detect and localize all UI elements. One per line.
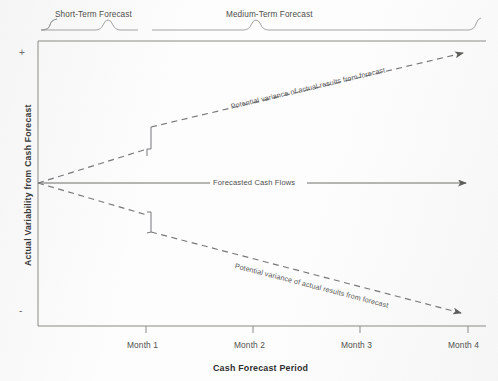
- x-axis-ticks: [146, 326, 468, 333]
- series-upper-variance: [38, 53, 463, 183]
- x-tick-label-month-1: Month 1: [127, 341, 158, 349]
- x-tick-label-month-4: Month 4: [448, 341, 479, 349]
- annotation-forecasted-cash-flows: Forecasted Cash Flows: [212, 179, 296, 187]
- bracket-medium-term: [152, 18, 481, 30]
- y-axis-positive-sign: +: [19, 48, 25, 58]
- bracket-label-short-term: Short-Term Forecast: [55, 11, 132, 19]
- series-lower-variance: [38, 183, 461, 313]
- x-tick-label-month-2: Month 2: [234, 341, 265, 349]
- lower-variance-step: [147, 212, 151, 233]
- chart-vector-layer: [0, 0, 498, 381]
- y-axis-title: Actual Variability from Cash Forecast: [24, 104, 33, 266]
- y-axis-negative-sign: -: [19, 306, 22, 316]
- chart-canvas: Short-Term Forecast Medium-Term Forecast…: [0, 0, 498, 381]
- bracket-label-medium-term: Medium-Term Forecast: [226, 11, 313, 19]
- x-axis-title: Cash Forecast Period: [213, 364, 308, 373]
- x-tick-label-month-3: Month 3: [341, 341, 372, 349]
- bracket-short-term: [42, 20, 138, 30]
- bracket-group: [41, 18, 481, 30]
- upper-variance-step: [147, 127, 151, 156]
